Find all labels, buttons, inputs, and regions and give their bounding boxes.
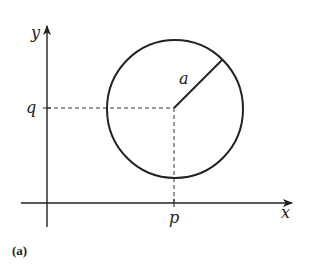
x-axis-label: x <box>281 203 290 222</box>
q-label: q <box>26 98 36 117</box>
diagram-canvas: y x q p a (a) <box>0 0 313 265</box>
radius-label: a <box>179 69 189 88</box>
panel-label: (a) <box>12 243 27 258</box>
y-axis-label: y <box>30 23 41 42</box>
p-label: p <box>169 208 179 227</box>
